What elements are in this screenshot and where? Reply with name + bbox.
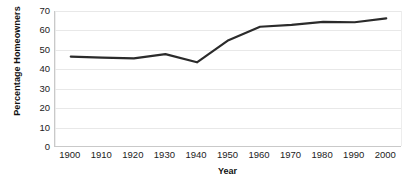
- line-chart: Percentage Homeowners 010203040506070 19…: [0, 0, 407, 184]
- y-tick-label-20: 20: [39, 103, 50, 113]
- x-tick-label-1950: 1950: [217, 150, 238, 160]
- y-tick-label-70: 70: [39, 6, 50, 16]
- y-axis-tick-labels: 010203040506070: [26, 11, 50, 147]
- y-tick-label-30: 30: [39, 84, 50, 94]
- y-tick-label-50: 50: [39, 45, 50, 55]
- y-axis-title: Percentage Homeowners: [12, 0, 22, 126]
- x-tick-label-1930: 1930: [154, 150, 175, 160]
- x-axis-title: Year: [54, 166, 401, 176]
- plot-area: [54, 11, 401, 147]
- x-tick-label-1980: 1980: [312, 150, 333, 160]
- x-tick-label-1920: 1920: [122, 150, 143, 160]
- y-tick-label-0: 0: [45, 142, 50, 152]
- y-tick-label-10: 10: [39, 123, 50, 133]
- series-line-percentage-homeowners: [71, 18, 386, 62]
- x-tick-label-1960: 1960: [248, 150, 269, 160]
- x-tick-label-2000: 2000: [375, 150, 396, 160]
- y-tick-label-60: 60: [39, 26, 50, 36]
- data-line-svg: [55, 11, 402, 147]
- x-tick-label-1910: 1910: [91, 150, 112, 160]
- x-tick-label-1970: 1970: [280, 150, 301, 160]
- y-tick-label-40: 40: [39, 65, 50, 75]
- x-axis-tick-labels: 1900191019201930194019501960197019801990…: [54, 150, 401, 164]
- x-tick-label-1900: 1900: [59, 150, 80, 160]
- x-tick-label-1940: 1940: [185, 150, 206, 160]
- x-tick-label-1990: 1990: [343, 150, 364, 160]
